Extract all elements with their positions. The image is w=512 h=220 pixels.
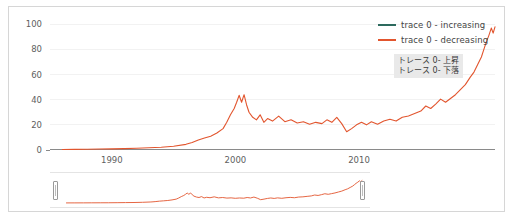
legend-item-decreasing[interactable]: trace 0 - decreasing xyxy=(378,33,502,46)
hover-tooltip-box: トレース 0- 上昇 トレース 0- 下落 xyxy=(394,54,463,78)
y-axis-tick-label: 0 xyxy=(37,145,42,155)
y-axis-ticks-group: 020406080100 xyxy=(26,19,50,155)
x-axis-tick-label: 2000 xyxy=(225,155,247,165)
legend-label-increasing: trace 0 - increasing xyxy=(401,20,485,30)
hover-line-decreasing: トレース 0- 下落 xyxy=(398,66,459,76)
range-slider-left-handle[interactable] xyxy=(53,181,58,200)
legend-swatch-decreasing xyxy=(378,39,396,41)
legend-label-decreasing: trace 0 - decreasing xyxy=(401,35,488,45)
legend-item-increasing[interactable]: trace 0 - increasing xyxy=(378,18,502,31)
range-slider-svg[interactable] xyxy=(50,173,370,209)
y-axis-tick-label: 20 xyxy=(31,120,42,130)
legend-swatch-increasing xyxy=(378,24,396,26)
chart-app: 020406080100 199020002010 trace 0 - incr… xyxy=(0,0,512,220)
y-axis-tick-label: 40 xyxy=(31,95,42,105)
legend[interactable]: trace 0 - increasing trace 0 - decreasin… xyxy=(378,18,502,48)
x-axis-ticks-group: 199020002010 xyxy=(101,155,370,165)
x-axis-tick-label: 1990 xyxy=(101,155,123,165)
y-axis-tick-label: 60 xyxy=(31,70,42,80)
range-slider[interactable] xyxy=(50,172,370,208)
hover-line-increasing: トレース 0- 上昇 xyxy=(398,56,459,66)
range-slider-trace xyxy=(66,181,362,203)
x-axis-tick-label: 2010 xyxy=(348,155,370,165)
y-axis-tick-label: 80 xyxy=(31,44,42,54)
range-slider-trace-group xyxy=(66,181,362,203)
range-slider-right-handle[interactable] xyxy=(360,181,365,200)
y-axis-tick-label: 100 xyxy=(26,19,42,29)
